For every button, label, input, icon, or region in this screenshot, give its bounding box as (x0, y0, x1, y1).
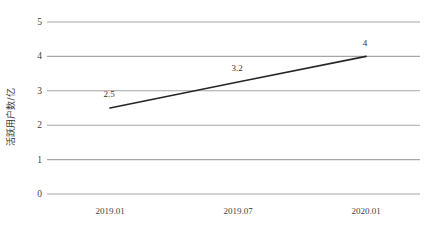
data-point-label: 4 (345, 38, 385, 48)
x-axis-tick-label: 2019.07 (203, 206, 273, 217)
line-chart: 活跃用户数/亿 5 4 3 2 1 0 2.5 3.2 4 2019.01 20… (0, 0, 429, 243)
data-point-label: 2.5 (89, 89, 129, 99)
data-point-label: 3.2 (217, 63, 257, 73)
x-axis-tick-label: 2020.01 (331, 206, 401, 217)
x-axis-tick-label: 2019.01 (75, 206, 145, 217)
